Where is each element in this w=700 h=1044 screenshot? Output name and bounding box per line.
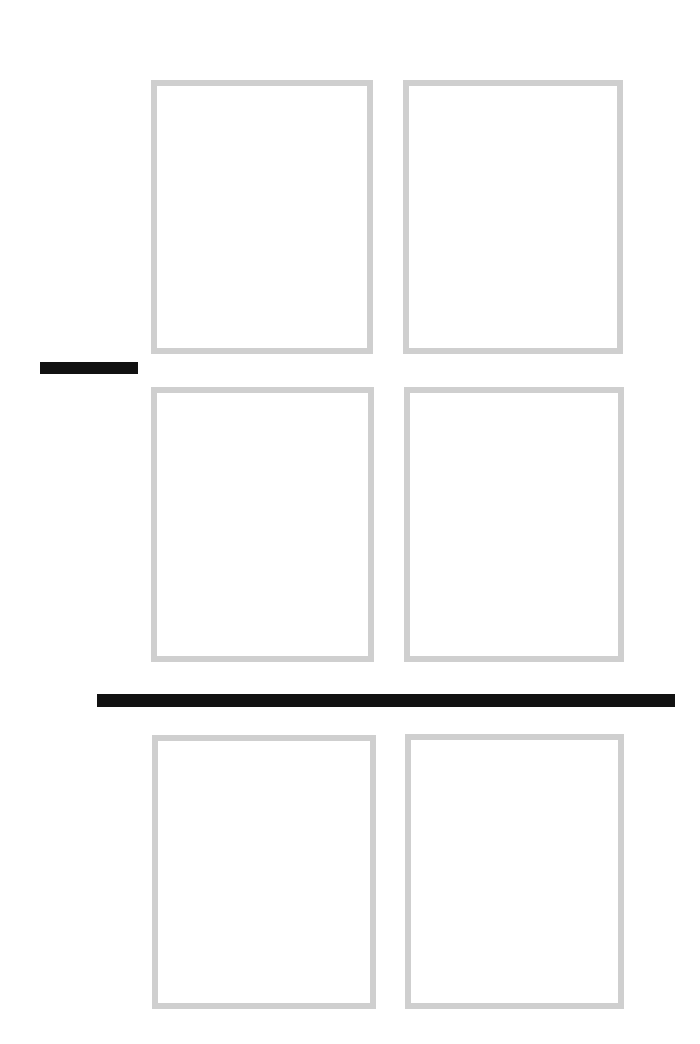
placeholder-frame-2 [403, 80, 623, 354]
placeholder-frame-6 [405, 734, 624, 1009]
placeholder-frame-4 [404, 387, 624, 662]
long-divider-bar [97, 694, 675, 707]
placeholder-frame-1 [151, 80, 373, 354]
placeholder-frame-3 [151, 387, 374, 662]
short-divider-bar [40, 362, 138, 374]
placeholder-frame-5 [152, 735, 376, 1009]
